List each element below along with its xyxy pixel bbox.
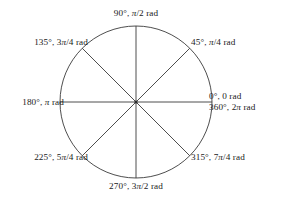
angle-label-180-deg: 180°, π rad xyxy=(22,97,64,108)
angle-label-45-deg: 45°, π/4 rad xyxy=(191,37,235,48)
angle-label-135-deg: 135°, 3π/4 rad xyxy=(34,37,88,48)
angle-label-315-deg: 315°, 7π/4 rad xyxy=(191,152,245,163)
angle-label-225-deg: 225°, 5π/4 rad xyxy=(34,152,88,163)
angle-label-90-deg: 90°, π/2 rad xyxy=(114,8,158,19)
angle-label-0-deg: 0°, 0 rad xyxy=(209,91,255,102)
center-point xyxy=(134,100,137,103)
angle-label-0-and-360-deg: 0°, 0 rad 360°, 2π rad xyxy=(209,91,255,114)
angle-label-270-deg: 270°, 3π/2 rad xyxy=(109,181,163,192)
angle-label-360-deg: 360°, 2π rad xyxy=(209,102,255,113)
unit-circle-diagram: 90°, π/2 rad 135°, 3π/4 rad 45°, π/4 rad… xyxy=(0,0,283,205)
